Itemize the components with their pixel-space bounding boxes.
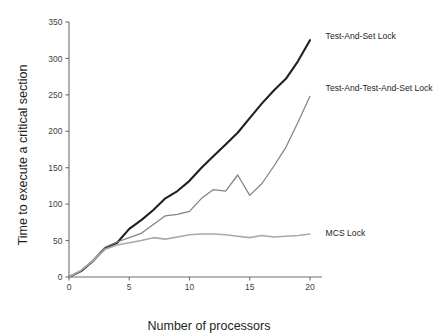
- y-tick-label: 50: [53, 236, 63, 246]
- y-tick-label: 200: [48, 126, 62, 136]
- series-label-2: MCS Lock: [326, 228, 366, 238]
- y-tick-label: 350: [48, 17, 62, 27]
- x-axis-title: Number of processors: [148, 319, 271, 333]
- y-tick-label: 300: [48, 54, 62, 64]
- y-axis-ticks: 050100150200250300350: [48, 17, 69, 282]
- line-chart: 050100150200250300350 05101520 Test-And-…: [0, 0, 440, 336]
- y-tick-label: 250: [48, 90, 62, 100]
- y-axis-title: Time to execute a critical section: [16, 65, 30, 246]
- series-label-1: Test-And-Test-And-Set Lock: [326, 83, 434, 93]
- x-axis-group: 05101520: [67, 277, 322, 292]
- series-label-0: Test-And-Set Lock: [326, 31, 397, 41]
- x-tick-label: 15: [245, 282, 255, 292]
- x-tick-label: 5: [127, 282, 132, 292]
- y-tick-label: 0: [58, 272, 63, 282]
- x-tick-label: 20: [305, 282, 315, 292]
- series-line-0: [69, 40, 310, 277]
- series-labels-group: Test-And-Set LockTest-And-Test-And-Set L…: [326, 31, 434, 238]
- series-group: [69, 40, 310, 277]
- series-line-2: [69, 234, 310, 277]
- chart-figure: 050100150200250300350 05101520 Test-And-…: [0, 0, 440, 336]
- x-tick-label: 10: [185, 282, 195, 292]
- x-axis-ticks: 05101520: [67, 277, 315, 292]
- x-tick-label: 0: [67, 282, 72, 292]
- y-tick-label: 150: [48, 163, 62, 173]
- y-axis-group: 050100150200250300350: [48, 17, 69, 282]
- y-tick-label: 100: [48, 199, 62, 209]
